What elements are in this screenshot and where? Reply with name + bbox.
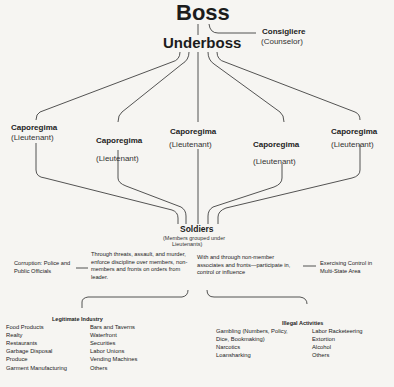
- list-item: Produce: [6, 355, 67, 363]
- consigliere-subtitle: (Counselor): [261, 37, 303, 46]
- list-item: Gambling (Numbers, Policy,: [216, 327, 288, 335]
- underboss-label: Underboss: [163, 34, 241, 51]
- list-item: Securities: [90, 339, 137, 347]
- caporegima-1-subtitle: (Lieutenant): [11, 133, 54, 142]
- caporegima-4-title: Caporegima: [253, 140, 299, 149]
- soldiers-subtitle-line2: Lieutenants): [172, 241, 202, 247]
- list-item: Others: [90, 364, 137, 372]
- consigliere-title: Consigliere: [262, 27, 306, 36]
- boss-label: Boss: [176, 0, 230, 25]
- list-item: Alcohol: [312, 343, 363, 351]
- caporegima-3-title: Caporegima: [170, 127, 216, 136]
- caporegima-5-subtitle: (Lieutenant): [331, 140, 374, 149]
- control-text: Exercising Control in Multi-State Area: [320, 260, 382, 275]
- caporegima-3-subtitle: (Lieutenant): [169, 140, 212, 149]
- caporegima-4-subtitle: (Lieutenant): [253, 157, 296, 166]
- legitimate-list-col2: Bars and Taverns Waterfront Securities L…: [90, 323, 137, 372]
- list-item: Waterfront: [90, 331, 137, 339]
- caporegima-5-title: Caporegima: [331, 127, 377, 136]
- list-item: Vending Machines: [90, 355, 137, 363]
- list-item: Restaurants: [6, 339, 67, 347]
- list-item: Others: [312, 351, 363, 359]
- list-item: Dice, Bookmaking): [216, 335, 288, 343]
- discipline-text: Through threats, assault, and murder, en…: [91, 251, 191, 282]
- illegal-list-col1: Gambling (Numbers, Policy, Dice, Bookmak…: [216, 327, 288, 359]
- influence-text: With and through non-member associates a…: [197, 254, 301, 277]
- list-item: Labor Unions: [90, 347, 137, 355]
- legitimate-list-col1: Food Products Realty Restaurants Garbage…: [6, 323, 67, 372]
- list-item: Extortion: [312, 335, 363, 343]
- legitimate-industry-header: Legitimate Industry: [52, 316, 103, 322]
- soldiers-title: Soldiers: [180, 225, 214, 235]
- list-item: Realty: [6, 331, 67, 339]
- corruption-text: Corruption: Police and Public Officials: [14, 260, 74, 275]
- list-item: Narcotics: [216, 343, 288, 351]
- caporegima-2-subtitle: (Lieutenant): [96, 154, 139, 163]
- mafia-hierarchy-diagram: Boss Consigliere (Counselor) Underboss C…: [0, 0, 394, 387]
- list-item: Garbage Disposal: [6, 347, 67, 355]
- list-item: Garment Manufacturing: [6, 364, 67, 372]
- list-item: Food Products: [6, 323, 67, 331]
- caporegima-1-title: Caporegima: [11, 123, 57, 132]
- illegal-activities-header: Illegal Activities: [282, 320, 323, 326]
- list-item: Bars and Taverns: [90, 323, 137, 331]
- caporegima-2-title: Caporegima: [96, 136, 142, 145]
- illegal-list-col2: Labor Racketeering Extortion Alcohol Oth…: [312, 327, 363, 359]
- list-item: Loansharking: [216, 351, 288, 359]
- list-item: Labor Racketeering: [312, 327, 363, 335]
